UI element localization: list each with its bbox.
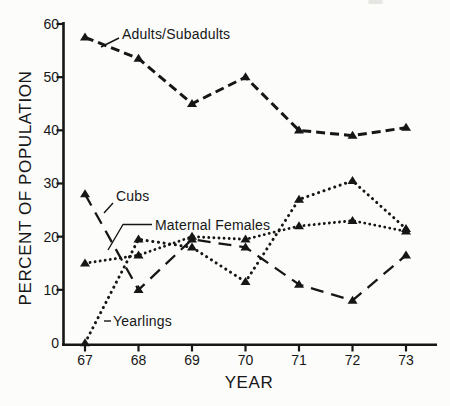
x-tick-label-68: 68: [131, 353, 147, 367]
y-axis-title: PERCENT OF POPULATION: [16, 71, 36, 306]
series-label-yearlings: Yearlings: [113, 314, 172, 329]
series-label-pointer-adults_subadults: [101, 38, 119, 47]
marker-adults_subadults-70: [241, 72, 251, 80]
series-label-pointer-cubs: [104, 203, 113, 213]
marker-maternal_females-71: [294, 221, 304, 229]
x-tick-label-71: 71: [291, 353, 307, 367]
marker-adults_subadults-67: [80, 32, 90, 40]
series-label-cubs: Cubs: [116, 189, 149, 204]
y-tick-label-60: 60: [43, 17, 59, 31]
series-label-maternal_females: Maternal Females: [155, 218, 270, 233]
x-tick-label-73: 73: [398, 353, 414, 367]
x-tick-label-72: 72: [345, 353, 361, 367]
marker-yearlings-67: [80, 338, 90, 346]
series-label-pointer-maternal_females: [108, 225, 152, 251]
plot-area: [0, 0, 450, 406]
marker-cubs-67: [80, 189, 90, 197]
x-axis-title: YEAR: [225, 373, 274, 393]
y-tick-label-50: 50: [43, 70, 59, 84]
bear-population-structure-chart: PERCENT OF POPULATION YEAR 0102030405060…: [0, 0, 450, 406]
y-tick-label-0: 0: [51, 336, 59, 350]
y-tick-label-30: 30: [43, 176, 59, 190]
marker-maternal_females-69: [187, 232, 197, 240]
y-tick-label-40: 40: [43, 123, 59, 137]
marker-adults_subadults-68: [134, 54, 144, 62]
marker-yearlings-72: [348, 176, 358, 184]
marker-maternal_females-67: [80, 258, 90, 266]
series-line-adults_subadults: [85, 37, 406, 135]
marker-cubs-73: [401, 250, 411, 258]
scan-smudge-artifact: [368, 0, 383, 4]
x-tick-label-67: 67: [77, 353, 93, 367]
y-tick-label-10: 10: [43, 283, 59, 297]
x-tick-label-69: 69: [184, 353, 200, 367]
y-tick-label-20: 20: [43, 230, 59, 244]
x-tick-label-70: 70: [238, 353, 254, 367]
series-label-adults_subadults: Adults/Subadults: [122, 27, 230, 42]
